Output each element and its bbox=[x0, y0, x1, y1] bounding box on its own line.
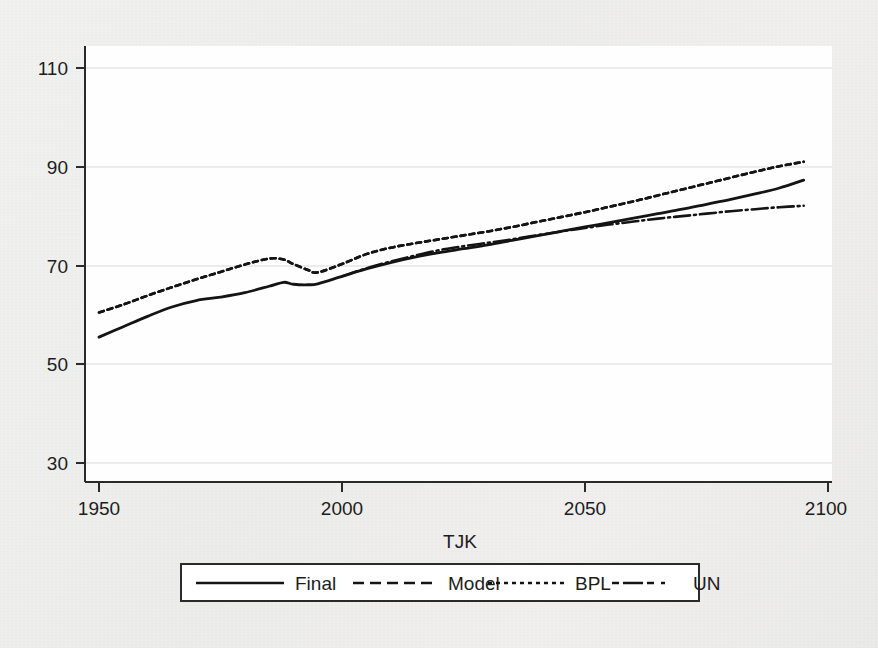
x-tick-label-2000: 2000 bbox=[321, 498, 363, 519]
x-tick-label-2050: 2050 bbox=[564, 498, 606, 519]
legend-label-final: Final bbox=[295, 573, 336, 594]
x-axis-title: TJK bbox=[443, 531, 477, 552]
y-tick-label-110: 110 bbox=[38, 58, 68, 79]
legend-label-bpl: BPL bbox=[575, 573, 611, 594]
y-tick-label-50: 50 bbox=[47, 354, 68, 375]
y-tick-label-30: 30 bbox=[47, 453, 68, 474]
y-tick-label-90: 90 bbox=[47, 157, 68, 178]
plot-area-background bbox=[85, 46, 832, 482]
x-axis-ticks bbox=[99, 482, 828, 492]
chart-page: 110 90 70 50 30 1950 2000 2050 2100 TJK bbox=[0, 0, 878, 648]
x-tick-label-2100: 2100 bbox=[805, 498, 847, 519]
y-tick-label-70: 70 bbox=[47, 256, 68, 277]
x-tick-label-1950: 1950 bbox=[78, 498, 120, 519]
y-axis-ticks bbox=[76, 68, 85, 463]
line-chart-svg: 110 90 70 50 30 1950 2000 2050 2100 TJK bbox=[0, 0, 878, 648]
legend-label-un: UN bbox=[693, 573, 720, 594]
figure-container: 110 90 70 50 30 1950 2000 2050 2100 TJK bbox=[0, 0, 878, 648]
